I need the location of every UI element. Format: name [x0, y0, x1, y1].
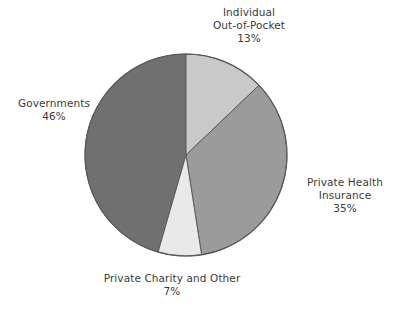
pie-label-private-charity-value: 7%: [86, 285, 258, 298]
pie-label-private-health-line1: Private Health: [296, 176, 394, 189]
pie-chart: Individual Out-of-Pocket 13% Governments…: [0, 0, 395, 313]
pie-label-governments: Governments 46%: [2, 97, 106, 123]
pie-chart-canvas: [0, 0, 395, 313]
pie-label-private-health-insurance: Private Health Insurance 35%: [296, 176, 394, 215]
pie-label-governments-value: 46%: [2, 110, 106, 123]
pie-label-private-charity-line1: Private Charity and Other: [86, 272, 258, 285]
pie-label-individual-out-of-pocket: Individual Out-of-Pocket 13%: [188, 6, 310, 45]
pie-label-private-health-value: 35%: [296, 202, 394, 215]
pie-label-private-health-line2: Insurance: [296, 189, 394, 202]
pie-label-private-charity-and-other: Private Charity and Other 7%: [86, 272, 258, 298]
pie-label-individual-line2: Out-of-Pocket: [188, 19, 310, 32]
pie-label-governments-line1: Governments: [2, 97, 106, 110]
pie-slices: [85, 54, 287, 256]
pie-label-individual-value: 13%: [188, 32, 310, 45]
pie-label-individual-line1: Individual: [188, 6, 310, 19]
